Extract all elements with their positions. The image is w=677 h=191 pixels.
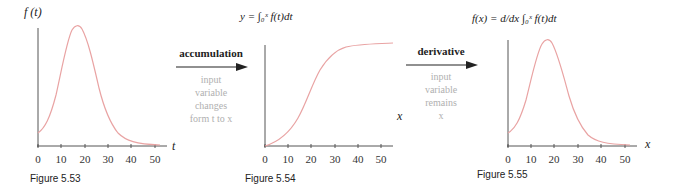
accumulation-curve xyxy=(265,43,393,146)
svg-text:x: x xyxy=(439,110,444,121)
svg-text:variable: variable xyxy=(195,87,228,98)
arrow-label: derivative xyxy=(417,45,464,57)
svg-text:50: 50 xyxy=(620,153,632,165)
svg-text:50: 50 xyxy=(376,153,388,165)
svg-text:input: input xyxy=(201,74,222,85)
x-tick-labels: 010 2030 4050 xyxy=(35,153,161,165)
svg-text:0: 0 xyxy=(505,153,511,165)
svg-text:40: 40 xyxy=(596,153,608,165)
figure-caption: Figure 5.53 xyxy=(30,173,81,184)
x-tick-labels: 010 2030 4050 xyxy=(262,153,387,165)
svg-text:20: 20 xyxy=(549,153,561,165)
y-axis-label: f(x) = d/dx ∫₀ˣ f(t)dt xyxy=(472,12,558,25)
svg-text:remains: remains xyxy=(425,97,457,108)
derivative-curve xyxy=(508,40,630,145)
x-tick-labels: 010 2030 4050 xyxy=(505,153,631,165)
density-curve xyxy=(38,26,160,145)
svg-text:0: 0 xyxy=(262,153,268,165)
svg-text:50: 50 xyxy=(150,153,162,165)
derivative-arrow: derivative input variable remains x xyxy=(406,45,478,121)
accumulation-arrow: accumulation input variable changes form… xyxy=(176,47,248,124)
figure-5-55: f(x) = d/dx ∫₀ˣ f(t)dt x 010 2030 4050 F… xyxy=(472,12,651,180)
y-axis-label: y = ∫₀ˣ f(t)dt xyxy=(239,10,293,23)
svg-text:30: 30 xyxy=(573,153,585,165)
svg-text:10: 10 xyxy=(56,153,68,165)
svg-text:form t to x: form t to x xyxy=(190,113,233,124)
x-axis-label: t xyxy=(172,139,176,153)
x-axis-label: x xyxy=(396,109,403,123)
svg-text:variable: variable xyxy=(425,84,458,95)
svg-text:changes: changes xyxy=(195,100,227,111)
figure-5-54: y = ∫₀ˣ f(t)dt x 010 2030 4050 Figure 5.… xyxy=(239,10,403,184)
figures-canvas: f (t) t 010 2030 4050 Figure 5.53 accumu… xyxy=(0,0,677,191)
x-axis-label: x xyxy=(644,137,651,151)
svg-text:40: 40 xyxy=(353,153,365,165)
figure-caption: Figure 5.54 xyxy=(245,173,296,184)
svg-text:40: 40 xyxy=(126,153,138,165)
svg-text:30: 30 xyxy=(103,153,115,165)
arrow-label: accumulation xyxy=(179,47,243,59)
arrow-notes: input variable changes form t to x xyxy=(190,74,233,124)
svg-text:10: 10 xyxy=(283,153,295,165)
svg-text:10: 10 xyxy=(526,153,538,165)
figure-5-53: f (t) t 010 2030 4050 Figure 5.53 xyxy=(24,5,176,184)
figure-caption: Figure 5.55 xyxy=(477,169,528,180)
svg-text:input: input xyxy=(431,71,452,82)
arrowhead-icon xyxy=(466,61,478,69)
arrowhead-icon xyxy=(236,63,248,71)
svg-text:30: 30 xyxy=(330,153,342,165)
y-axis-label: f (t) xyxy=(24,5,42,19)
svg-text:0: 0 xyxy=(35,153,41,165)
arrow-notes: input variable remains x xyxy=(425,71,458,121)
svg-text:20: 20 xyxy=(306,153,318,165)
svg-text:20: 20 xyxy=(80,153,92,165)
